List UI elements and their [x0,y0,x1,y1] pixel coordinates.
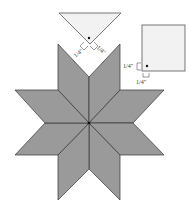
square-seam-label-left: 1/4" [123,63,134,69]
corner-square [142,25,185,71]
star-center-dot [88,122,91,125]
triangle-seam-dot [88,37,90,39]
square-seam-dot [146,65,148,67]
quilt-diagram: 1/4" 1/4" 1/4" 1/4" [0,0,195,211]
square-seam-label-bottom: 1/4" [136,79,147,85]
square-seam-bracket-bottom [143,73,149,77]
triangle-seam-label-right: 1/4" [96,44,108,55]
setting-triangle [59,13,121,44]
square-seam-bracket-left [137,63,141,70]
